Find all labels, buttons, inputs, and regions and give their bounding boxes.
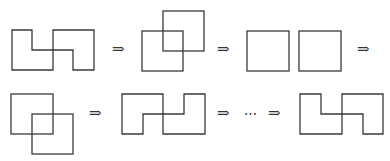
row2-overlapping-squares	[11, 94, 73, 154]
row2-interlocking-l-shapes	[122, 94, 205, 134]
right-l-piece	[163, 94, 205, 134]
left-l-piece	[12, 30, 53, 70]
row1-interlocking-l-shapes	[12, 30, 94, 70]
implies-arrow-2: ⇒	[217, 42, 230, 57]
implies-arrow-5: ⇒	[217, 106, 230, 121]
left-l-piece	[122, 94, 163, 134]
implies-arrow-1: ⇒	[112, 42, 125, 57]
right-l-piece	[342, 94, 383, 134]
row1-overlapping-squares	[142, 11, 204, 71]
implies-arrow-3: ⇒	[357, 42, 370, 57]
implies-arrow-6: ⇒	[268, 106, 281, 121]
diagram-canvas	[0, 0, 390, 161]
row1-separated-squares	[247, 31, 341, 71]
ellipsis: ⋯	[244, 107, 258, 120]
left-l-piece	[300, 94, 342, 134]
implies-arrow-4: ⇒	[89, 106, 102, 121]
square-b	[299, 31, 341, 71]
row2-final-interlocking-l-shapes	[300, 94, 383, 134]
square-a	[247, 31, 289, 71]
right-l-piece	[53, 30, 94, 70]
